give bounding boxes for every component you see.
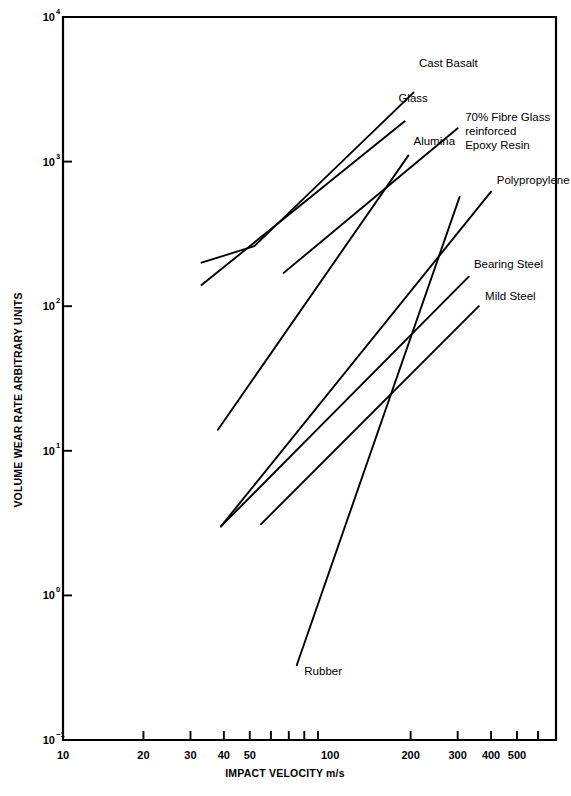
svg-text:70% Fibre Glass: 70% Fibre Glass: [465, 111, 550, 123]
y-axis-title: VOLUME WEAR RATE ARBITRARY UNITS: [12, 292, 24, 507]
series-label-bearing-steel: Bearing Steel: [474, 258, 543, 270]
svg-text:10: 10: [43, 589, 55, 601]
series-label-rubber: Rubber: [304, 665, 342, 677]
svg-text:Epoxy Resin: Epoxy Resin: [465, 139, 530, 151]
series-label-polypropylene: Polypropylene: [497, 174, 570, 186]
svg-text:2: 2: [56, 296, 60, 305]
x-axis-title: IMPACT VELOCITY m/s: [225, 767, 345, 779]
svg-text:10: 10: [43, 734, 55, 746]
x-tick-label: 30: [184, 749, 196, 761]
series-label-cast-basalt: Cast Basalt: [419, 57, 479, 69]
x-tick-label: 200: [401, 749, 419, 761]
svg-text:10: 10: [43, 445, 55, 457]
x-tick-label: 400: [482, 749, 500, 761]
wear-rate-vs-impact-velocity-chart: 1020304050100200300400500 10−11001011021…: [0, 0, 571, 796]
x-tick-label: 10: [57, 749, 69, 761]
series-label-alumina: Alumina: [413, 135, 455, 147]
svg-text:10: 10: [43, 300, 55, 312]
svg-text:0: 0: [56, 585, 60, 594]
svg-text:10: 10: [43, 156, 55, 168]
svg-text:1: 1: [56, 441, 60, 450]
x-tick-label: 40: [218, 749, 230, 761]
series-label-mild-steel: Mild Steel: [485, 290, 536, 302]
svg-text:reinforced: reinforced: [465, 125, 516, 137]
svg-text:−1: −1: [56, 730, 65, 739]
x-tick-label: 20: [137, 749, 149, 761]
x-tick-label: 300: [448, 749, 466, 761]
x-tick-label: 50: [244, 749, 256, 761]
x-tick-label: 500: [508, 749, 526, 761]
chart-root: 1020304050100200300400500 10−11001011021…: [0, 0, 571, 796]
series-label-glass: Glass: [398, 92, 428, 104]
svg-text:10: 10: [43, 11, 55, 23]
svg-text:3: 3: [56, 152, 60, 161]
x-tick-label: 100: [321, 749, 339, 761]
